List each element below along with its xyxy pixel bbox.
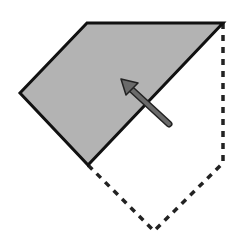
fold-diagram [0,0,236,232]
diagram-svg [0,0,236,232]
shaded-flap [20,23,223,165]
